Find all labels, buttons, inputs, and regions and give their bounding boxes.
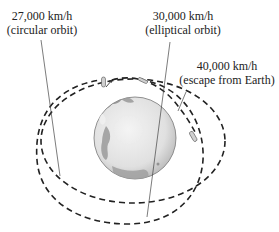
elliptical-speed: 30,000 km/h xyxy=(140,9,226,23)
escape-speed: 40,000 km/h xyxy=(175,59,279,73)
elliptical-orbit-label: 30,000 km/h (elliptical orbit) xyxy=(140,9,226,37)
circular-leader-line xyxy=(41,40,60,176)
escape-label: 40,000 km/h (escape from Earth) xyxy=(175,59,279,87)
elliptical-caption: (elliptical orbit) xyxy=(140,23,226,37)
escape-caption: (escape from Earth) xyxy=(175,73,279,87)
escape-spacecraft-icon xyxy=(189,131,198,143)
circular-caption: (circular orbit) xyxy=(4,23,80,37)
circular-speed: 27,000 km/h xyxy=(4,9,80,23)
circular-orbit-label: 27,000 km/h (circular orbit) xyxy=(4,9,80,37)
earth xyxy=(94,95,176,180)
escape-leader-line xyxy=(178,92,186,111)
rocket-icon xyxy=(102,77,113,87)
spacecraft-icon xyxy=(138,77,148,84)
